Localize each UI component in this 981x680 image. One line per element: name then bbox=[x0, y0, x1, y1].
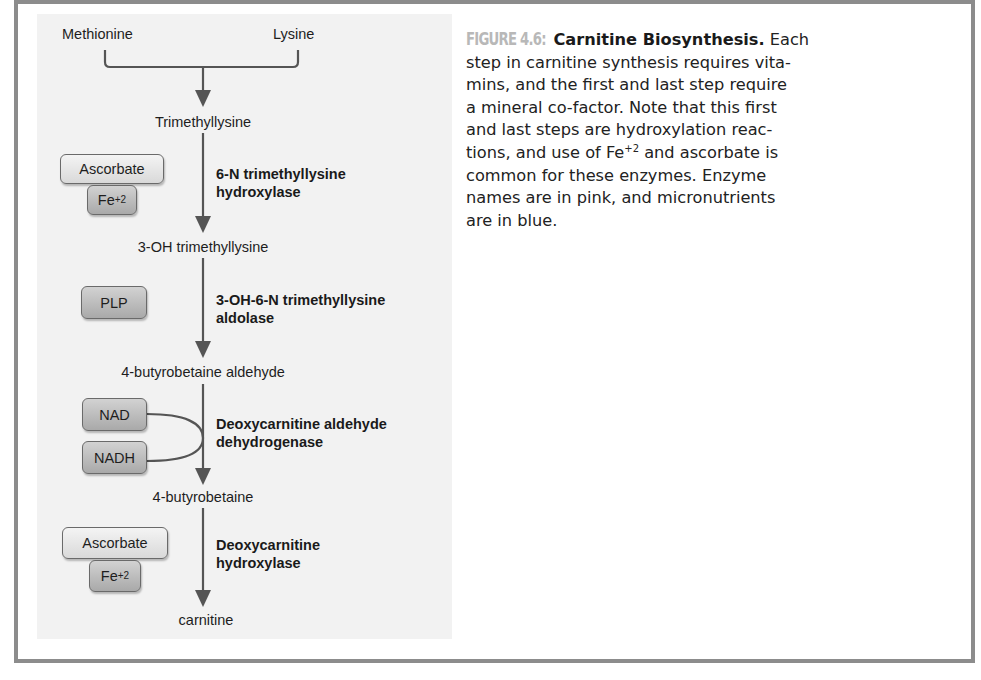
cofactor-plp: PLP bbox=[81, 286, 147, 319]
cofactor-nadh: NADH bbox=[82, 441, 147, 474]
caption-text: and ascorbate is bbox=[639, 143, 778, 162]
cofactor-ascorbate-step-1: Ascorbate bbox=[60, 154, 164, 184]
enzyme-step-2: 3-OH-6-N trimethyllysine aldolase bbox=[216, 291, 385, 327]
metabolite-3-oh-trimethyllysine: 3-OH trimethyllysine bbox=[138, 240, 269, 255]
metabolite-4-butyrobetaine: 4-butyrobetaine bbox=[153, 490, 254, 505]
caption-line-9: are in blue. bbox=[466, 210, 936, 233]
caption-line-5: and last steps are hydroxylation reac- bbox=[466, 119, 936, 142]
precursor-methionine: Methionine bbox=[62, 27, 133, 42]
nad-nadh-curve bbox=[147, 414, 203, 461]
arrowhead-5 bbox=[195, 590, 211, 607]
cofactor-ascorbate-step-4: Ascorbate bbox=[62, 527, 168, 559]
enzyme-step-3-line1: Deoxycarnitine aldehyde bbox=[216, 415, 387, 433]
cofactor-label: NAD bbox=[99, 407, 130, 423]
arrowhead-3 bbox=[195, 341, 211, 358]
precursor-lysine: Lysine bbox=[273, 27, 314, 42]
enzyme-step-2-line1: 3-OH-6-N trimethyllysine bbox=[216, 291, 385, 309]
caption-line-2: step in carnitine synthesis requires vit… bbox=[466, 52, 936, 75]
caption-line-4: a mineral co-factor. Note that this firs… bbox=[466, 97, 936, 120]
cofactor-iron-step-4: Fe+2 bbox=[89, 560, 141, 592]
enzyme-step-1-line2: hydroxylase bbox=[216, 183, 346, 201]
metabolite-trimethyllysine: Trimethyllysine bbox=[155, 115, 251, 130]
caption-line-6: tions, and use of Fe+2 and ascorbate is bbox=[466, 142, 936, 165]
charge-superscript: +2 bbox=[115, 194, 126, 205]
caption-text: Each bbox=[765, 30, 809, 49]
precursor-bracket bbox=[105, 50, 298, 67]
metabolite-carnitine: carnitine bbox=[179, 613, 234, 628]
cofactor-label: Ascorbate bbox=[82, 535, 147, 551]
caption-line-8: names are in pink, and micronutrients bbox=[466, 187, 936, 210]
enzyme-step-1-line1: 6-N trimethyllysine bbox=[216, 165, 346, 183]
arrowhead-1 bbox=[195, 90, 211, 107]
figure-label: FIGURE 4.6: bbox=[466, 28, 546, 51]
arrowhead-4 bbox=[195, 468, 211, 485]
enzyme-step-4-line1: Deoxycarnitine bbox=[216, 536, 320, 554]
cofactor-label: Fe bbox=[101, 568, 118, 584]
cofactor-label: Fe bbox=[98, 192, 115, 208]
metabolite-4-butyrobetaine-aldehyde: 4-butyrobetaine aldehyde bbox=[121, 365, 285, 380]
caption-line-1: FIGURE 4.6: Carnitine Biosynthesis. Each bbox=[466, 28, 936, 52]
caption-line-3: mins, and the first and last step requir… bbox=[466, 74, 936, 97]
cofactor-iron-step-1: Fe+2 bbox=[87, 185, 137, 215]
cofactor-nad: NAD bbox=[82, 398, 147, 431]
caption-line-7: common for these enzymes. Enzyme bbox=[466, 165, 936, 188]
caption-text: tions, and use of Fe bbox=[466, 143, 624, 162]
figure-title: Carnitine Biosynthesis. bbox=[553, 30, 764, 49]
enzyme-step-3: Deoxycarnitine aldehyde dehydrogenase bbox=[216, 415, 387, 451]
enzyme-step-2-line2: aldolase bbox=[216, 309, 385, 327]
enzyme-step-1: 6-N trimethyllysine hydroxylase bbox=[216, 165, 346, 201]
enzyme-step-4: Deoxycarnitine hydroxylase bbox=[216, 536, 320, 572]
arrowhead-2 bbox=[195, 216, 211, 233]
cofactor-label: Ascorbate bbox=[79, 161, 144, 177]
cofactor-label: PLP bbox=[100, 295, 127, 311]
charge-superscript: +2 bbox=[118, 570, 129, 581]
cofactor-label: NADH bbox=[94, 450, 135, 466]
figure-caption: FIGURE 4.6: Carnitine Biosynthesis. Each… bbox=[466, 28, 936, 232]
enzyme-step-4-line2: hydroxylase bbox=[216, 554, 320, 572]
enzyme-step-3-line2: dehydrogenase bbox=[216, 433, 387, 451]
charge-superscript: +2 bbox=[624, 143, 639, 154]
